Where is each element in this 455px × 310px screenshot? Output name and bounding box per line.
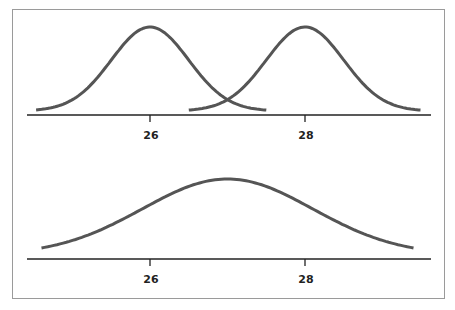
top-tick-label-28: 28 <box>298 129 313 142</box>
bottom-tick-label-28: 28 <box>298 273 313 286</box>
bottom-tick-label-26: 26 <box>143 273 158 286</box>
bottom-curve <box>42 179 414 248</box>
distribution-curves <box>0 0 455 310</box>
top-tick-label-26: 26 <box>143 129 158 142</box>
